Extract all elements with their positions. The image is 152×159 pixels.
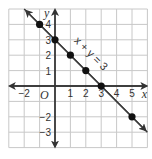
x-tick-label: 2 [83,88,89,99]
x-tick-label: 3 [98,88,104,99]
grid [9,9,148,148]
data-point [36,21,43,28]
x-tick-label: 4 [114,88,120,99]
x-tick-label: 5 [129,88,135,99]
x-axis-label: x [141,87,148,101]
data-point [82,67,89,74]
x-tick-label: 1 [68,88,74,99]
data-point [98,82,105,89]
y-tick-label: 3 [45,35,51,46]
data-point [51,36,58,43]
y-axis-label: y [43,6,50,20]
y-tick-label: 1 [45,66,51,77]
graph: −2123454321−2−3 x y O x + y = 3 [0,0,152,159]
y-tick-label: 2 [45,50,51,61]
y-tick-label: −3 [40,127,52,138]
origin-label: O [40,88,49,102]
data-point [67,52,74,59]
y-tick-label: 4 [45,19,51,30]
y-tick-label: −2 [40,112,52,123]
data-point [128,113,135,120]
axes [10,10,147,147]
x-tick-label: −2 [18,88,30,99]
